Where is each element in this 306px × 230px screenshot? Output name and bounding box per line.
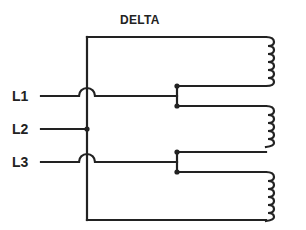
wiring-svg — [0, 0, 306, 230]
l1-wire — [41, 88, 177, 96]
coil-1-icon — [266, 37, 274, 86]
coil-3-icon — [266, 172, 274, 221]
coil-2-icon — [266, 106, 274, 147]
l3-wire — [41, 154, 177, 162]
junction-dot-l2 — [84, 126, 89, 131]
delta-wiring-diagram: DELTA L1 L2 L3 — [0, 0, 306, 230]
